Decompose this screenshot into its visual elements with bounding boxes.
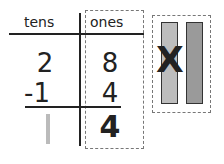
ones-result: 4 xyxy=(95,112,125,142)
tens-minuend: 2 xyxy=(30,50,60,76)
tens-subtrahend: -1 xyxy=(22,80,52,106)
sum-line xyxy=(25,106,121,108)
column-divider xyxy=(79,13,81,146)
tens-header: tens xyxy=(24,15,54,29)
ones-minuend: 8 xyxy=(95,50,125,76)
ones-subtrahend: 4 xyxy=(95,80,125,106)
rod xyxy=(186,22,203,104)
tens-result-mark xyxy=(46,114,50,144)
cross-out-icon: X xyxy=(152,42,188,78)
